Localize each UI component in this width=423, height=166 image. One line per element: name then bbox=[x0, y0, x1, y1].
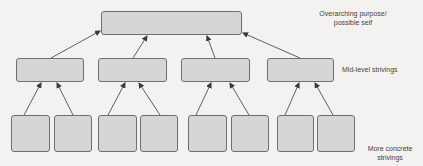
mid-box-2 bbox=[98, 58, 167, 82]
bottom-box-4 bbox=[140, 115, 178, 152]
arrow-b4-mid2 bbox=[139, 83, 160, 115]
mid-box-4 bbox=[267, 58, 334, 82]
arrow-b5-mid3 bbox=[196, 83, 211, 115]
top-level-label-line2: possible self bbox=[298, 18, 408, 27]
top-box-overarching-purpose bbox=[101, 11, 242, 35]
arrow-b3-mid2 bbox=[108, 83, 125, 115]
striving-hierarchy-diagram: Overarching purpose/ possible self Mid-l… bbox=[0, 0, 423, 166]
bottom-box-3 bbox=[98, 115, 137, 152]
bottom-level-label: More concrete strivings bbox=[360, 144, 420, 162]
arrow-b8-mid4 bbox=[315, 83, 333, 115]
bottom-box-1 bbox=[11, 115, 50, 152]
bottom-box-2 bbox=[54, 115, 92, 152]
mid-level-label-text: Mid-level strivings bbox=[342, 66, 398, 73]
bottom-box-7 bbox=[277, 115, 314, 152]
bottom-level-label-line2: strivings bbox=[360, 153, 420, 162]
arrow-b2-mid1 bbox=[57, 83, 73, 115]
mid-box-1 bbox=[16, 58, 84, 82]
top-level-label-line1: Overarching purpose/ bbox=[298, 9, 408, 18]
bottom-level-label-line1: More concrete bbox=[360, 144, 420, 153]
mid-box-3 bbox=[181, 58, 250, 82]
bottom-box-8 bbox=[317, 115, 355, 152]
arrow-b6-mid3 bbox=[230, 83, 249, 115]
arrow-mid1-top bbox=[51, 31, 100, 58]
arrow-mid2-top bbox=[133, 36, 147, 58]
arrow-b7-mid4 bbox=[285, 83, 299, 115]
bottom-box-6 bbox=[231, 115, 269, 152]
top-level-label: Overarching purpose/ possible self bbox=[298, 9, 408, 27]
arrow-mid4-top bbox=[243, 33, 300, 58]
mid-level-label: Mid-level strivings bbox=[342, 65, 422, 74]
arrow-mid3-top bbox=[207, 36, 215, 58]
bottom-box-5 bbox=[188, 115, 227, 152]
arrow-b1-mid1 bbox=[24, 83, 41, 115]
